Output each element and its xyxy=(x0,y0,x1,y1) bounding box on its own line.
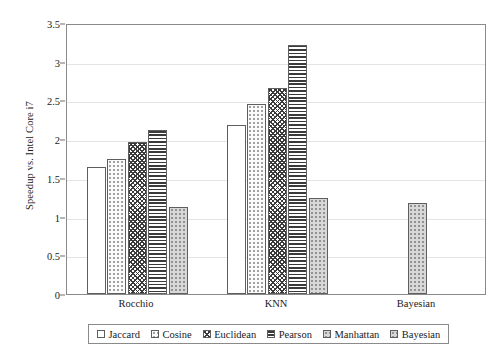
legend-swatch-icon-euclidean xyxy=(203,330,211,338)
legend-item-jaccard[interactable]: Jaccard xyxy=(97,329,140,340)
y-tick-label: 2 xyxy=(28,135,60,146)
legend-swatch-icon-pearson xyxy=(267,330,275,338)
bar-knn-cosine xyxy=(247,104,266,294)
gridline xyxy=(67,64,485,65)
y-tick-label: 1.5 xyxy=(28,173,60,184)
legend-item-bayesian[interactable]: Bayesian xyxy=(390,329,440,340)
y-tick-label: 3.5 xyxy=(28,19,60,30)
legend-item-euclidean[interactable]: Euclidean xyxy=(203,329,256,340)
legend-swatch-icon-manhattan xyxy=(323,330,331,338)
bar-knn-pearson xyxy=(288,45,307,294)
y-tick-mark xyxy=(60,101,65,102)
legend-label: Jaccard xyxy=(109,329,140,340)
y-axis-ticks: 00.511.522.533.5 xyxy=(22,24,60,295)
legend-label: Cosine xyxy=(162,329,191,340)
legend-label: Euclidean xyxy=(214,329,256,340)
y-tick-mark xyxy=(60,140,65,141)
x-tick-label-bayesian: Bayesian xyxy=(397,298,436,309)
y-tick-label: 1 xyxy=(28,212,60,223)
bar-knn-jaccard xyxy=(227,125,246,294)
bar-rocchio-euclidean xyxy=(128,142,147,294)
y-tick-mark xyxy=(60,62,65,63)
bar-rocchio-cosine xyxy=(107,159,126,294)
plot-area xyxy=(66,24,486,295)
x-axis-labels: RocchioKNNBayesian xyxy=(66,298,486,316)
bar-bayesian-bayesian xyxy=(408,203,427,294)
bar-rocchio-jaccard xyxy=(87,167,106,294)
x-tick-label-rocchio: Rocchio xyxy=(119,298,154,309)
legend-swatch-icon-cosine xyxy=(151,330,159,338)
legend-label: Manhattan xyxy=(334,329,379,340)
y-tick-mark xyxy=(60,24,65,25)
bar-rocchio-pearson xyxy=(148,130,167,294)
y-tick-label: 3 xyxy=(28,57,60,68)
bar-knn-manhattan xyxy=(309,198,328,294)
legend-label: Bayesian xyxy=(402,329,441,340)
bar-rocchio-manhattan xyxy=(169,207,188,294)
bar-chart: Speedup vs. Intel Core i7 00.511.522.533… xyxy=(0,0,504,352)
y-tick-mark xyxy=(60,217,65,218)
y-tick-label: 0 xyxy=(28,290,60,301)
legend-swatch-icon-jaccard xyxy=(97,330,105,338)
legend-swatch-icon-bayesian xyxy=(390,330,398,338)
y-tick-mark xyxy=(60,295,65,296)
y-tick-mark xyxy=(60,256,65,257)
legend-label: Pearson xyxy=(279,329,312,340)
legend-item-manhattan[interactable]: Manhattan xyxy=(323,329,379,340)
legend-item-cosine[interactable]: Cosine xyxy=(151,329,192,340)
y-tick-label: 0.5 xyxy=(28,251,60,262)
x-tick-label-knn: KNN xyxy=(265,298,288,309)
bar-knn-euclidean xyxy=(268,88,287,294)
y-tick-mark xyxy=(60,178,65,179)
chart-legend: JaccardCosineEuclideanPearsonManhattanBa… xyxy=(88,324,449,344)
legend-item-pearson[interactable]: Pearson xyxy=(267,329,312,340)
y-tick-label: 2.5 xyxy=(28,96,60,107)
